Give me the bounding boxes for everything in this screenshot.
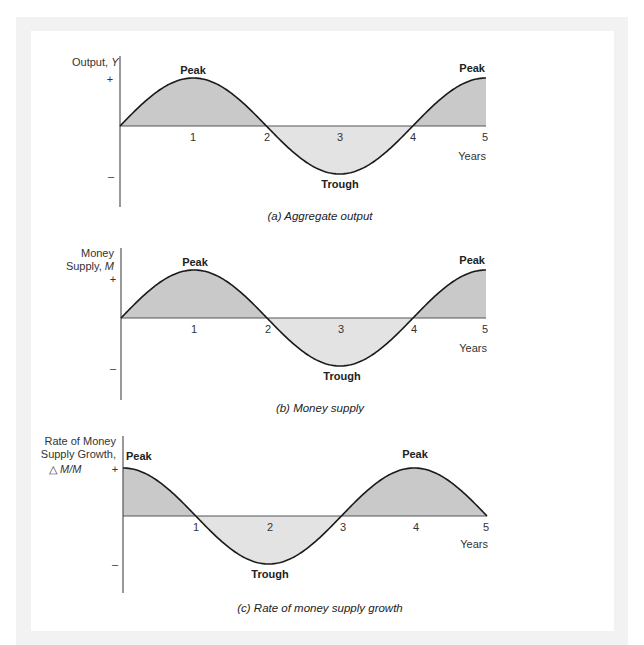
y-axis-label-line1: Money: [81, 247, 115, 259]
x-axis-label: Years: [460, 538, 488, 550]
x-tick-2: 2: [267, 521, 273, 533]
chart-money-supply: Money Supply, M + – 1 2 3 4 5 Years Peak…: [66, 247, 488, 414]
negative-area: [120, 126, 486, 174]
plus-tick: +: [112, 463, 118, 475]
y-axis-label: Output, Y: [72, 56, 119, 68]
positive-area: [120, 78, 486, 126]
delta-symbol: △: [49, 463, 58, 475]
y-axis-label-line1: Rate of Money: [44, 435, 116, 447]
minus-tick: –: [112, 558, 119, 570]
negative-area: [123, 516, 487, 564]
chart-aggregate-output: Output, Y + – 1 2 3 4 5 Years Peak Troug…: [72, 56, 488, 222]
x-tick-2: 2: [265, 323, 271, 335]
peak-label: Peak: [182, 256, 209, 268]
chart-caption: (c) Rate of money supply growth: [237, 602, 403, 614]
x-tick-5: 5: [482, 131, 488, 143]
x-tick-1: 1: [193, 521, 199, 533]
peak-label: Peak: [459, 254, 486, 266]
x-tick-3: 3: [337, 131, 343, 143]
chart-money-supply-growth: Rate of Money Supply Growth, △M/M + – 1 …: [41, 435, 489, 614]
x-tick-1: 1: [190, 131, 196, 143]
positive-area: [121, 270, 486, 318]
positive-area: [123, 468, 487, 516]
x-tick-2: 2: [264, 131, 270, 143]
y-axis-label-line3: △M/M: [49, 463, 82, 475]
peak-label: Peak: [402, 448, 429, 460]
y-axis-label-line2: Supply, M: [66, 260, 115, 272]
plus-tick: +: [107, 73, 113, 85]
x-tick-3: 3: [340, 521, 346, 533]
chart-caption: (b) Money supply: [276, 402, 365, 414]
x-tick-5: 5: [483, 521, 489, 533]
minus-tick: –: [108, 170, 115, 182]
trough-label: Trough: [321, 178, 359, 190]
trough-label: Trough: [323, 370, 361, 382]
x-axis-label: Years: [459, 342, 487, 354]
x-tick-1: 1: [191, 323, 197, 335]
y-axis-label-line2: Supply Growth,: [41, 448, 116, 460]
chart-caption: (a) Aggregate output: [267, 210, 373, 222]
peak-label: Peak: [180, 64, 207, 76]
x-tick-4: 4: [410, 131, 416, 143]
minus-tick: –: [110, 362, 117, 374]
negative-area: [121, 318, 486, 366]
x-tick-4: 4: [411, 323, 417, 335]
peak-label: Peak: [459, 62, 486, 74]
business-cycle-figure: Output, Y + – 1 2 3 4 5 Years Peak Troug…: [0, 0, 644, 645]
x-tick-3: 3: [338, 323, 344, 335]
trough-label: Trough: [251, 568, 289, 580]
plus-tick: +: [110, 273, 116, 285]
x-axis-label: Years: [458, 150, 486, 162]
peak-label: Peak: [126, 450, 153, 462]
x-tick-5: 5: [482, 323, 488, 335]
x-tick-4: 4: [413, 521, 419, 533]
